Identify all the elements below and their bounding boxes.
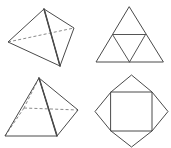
sheet-background <box>0 0 171 148</box>
geometry-figure-sheet <box>0 0 171 148</box>
figures-canvas <box>0 0 171 148</box>
